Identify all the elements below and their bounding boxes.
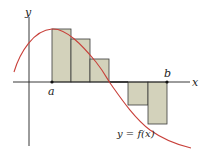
point-b [165, 80, 168, 83]
riemann-rectangles [52, 29, 167, 124]
y-axis-label: y [24, 6, 32, 19]
riemann-sum-diagram: y x a b y = f(x) [0, 0, 205, 155]
b-label: b [164, 67, 171, 80]
x-axis-label: x [192, 76, 199, 89]
point-a [50, 80, 53, 83]
riemann-rectangle-6 [148, 82, 167, 124]
riemann-rectangle-1 [52, 29, 71, 82]
curve-label: y = f(x) [116, 128, 155, 139]
riemann-rectangle-5 [128, 82, 148, 105]
a-label: a [48, 85, 55, 98]
riemann-rectangle-3 [90, 59, 109, 82]
